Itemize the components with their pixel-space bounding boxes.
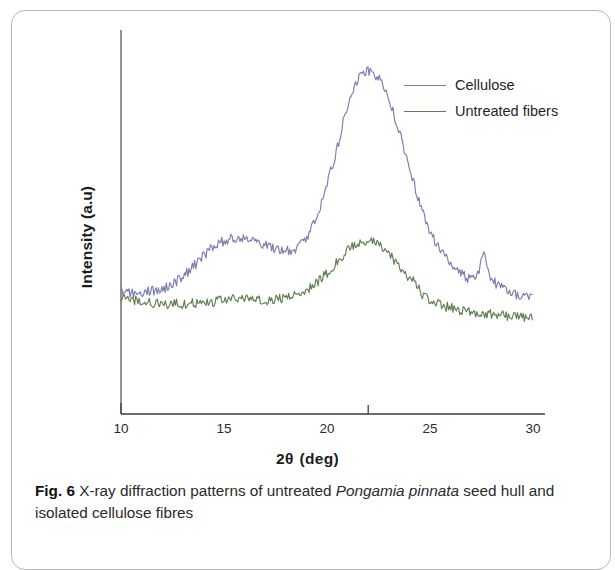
legend-line-swatch-cellulose [404, 85, 446, 86]
caption-species-name: Pongamia pinnata [336, 482, 459, 499]
x-axis-title: 2θ(deg) [0, 450, 615, 468]
caption-text-before: X-ray diffraction patterns of untreated [79, 482, 331, 499]
figure-caption: Fig. 6 X-ray diffraction patterns of unt… [35, 480, 595, 523]
legend-item-cellulose: Cellulose [404, 72, 594, 98]
x-tick-label-15: 15 [204, 421, 244, 436]
x-tick-label-30: 30 [513, 421, 553, 436]
plot-legend: Cellulose Untreated fibers [404, 72, 594, 124]
x-tick-label-10: 10 [101, 421, 141, 436]
legend-label-cellulose: Cellulose [455, 77, 515, 93]
x-axis-unit: (deg) [300, 450, 339, 467]
legend-line-swatch-untreated-fibers [404, 111, 446, 112]
x-tick-label-20: 20 [307, 421, 347, 436]
x-axis-symbol: 2θ [276, 450, 294, 467]
y-axis-title: Intensity (a.u) [78, 137, 96, 337]
legend-item-untreated-fibers: Untreated fibers [404, 98, 594, 124]
curve-untreated-fibers [121, 238, 532, 322]
figure-number: Fig. 6 [35, 482, 75, 499]
legend-label-untreated-fibers: Untreated fibers [455, 103, 558, 119]
plot-area: Intensity (a.u) 1015202530 Cellulose Unt… [0, 0, 615, 455]
x-tick-label-25: 25 [410, 421, 450, 436]
